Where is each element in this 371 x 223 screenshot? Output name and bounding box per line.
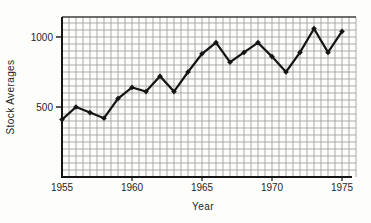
x-tick-label: 1960 [121, 182, 144, 193]
x-tick-label: 1975 [331, 182, 354, 193]
stock-averages-line-chart: 500100019551960196519701975Stock Average… [0, 0, 371, 223]
x-tick-label: 1970 [261, 182, 284, 193]
y-tick-label: 500 [36, 102, 53, 113]
y-tick-label: 1000 [31, 32, 54, 43]
plot-area: 500100019551960196519701975Stock Average… [0, 0, 371, 223]
grid-lines [62, 17, 356, 177]
x-tick-label: 1965 [191, 182, 214, 193]
y-axis-title: Stock Averages [5, 60, 16, 135]
x-tick-label: 1955 [51, 182, 74, 193]
x-axis-title: Year [192, 201, 214, 212]
